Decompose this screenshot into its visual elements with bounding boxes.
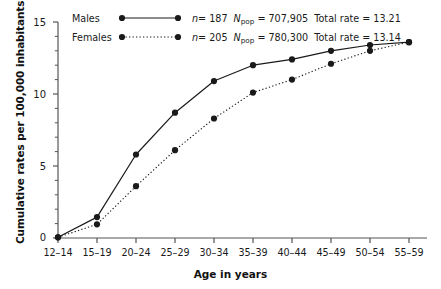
data-point-females-20–24: [133, 183, 139, 189]
data-point-males-15–19: [94, 214, 100, 220]
data-point-females-15–19: [94, 221, 100, 227]
data-point-males-25–29: [172, 110, 178, 116]
legend-marker-females: [175, 34, 181, 40]
data-point-females-12–14: [55, 234, 61, 240]
data-point-females-30–34: [211, 115, 217, 121]
data-point-males-30–34: [211, 78, 217, 84]
legend-marker-males: [119, 15, 125, 21]
data-point-females-25–29: [172, 147, 178, 153]
chart-figure: Cumulative rates per 100,000 inhabitants…: [0, 0, 441, 289]
data-point-females-40–44: [289, 77, 295, 83]
data-point-males-20–24: [133, 151, 139, 157]
data-point-females-45–49: [328, 61, 334, 67]
data-point-males-35–39: [250, 62, 256, 68]
series-line-males: [58, 42, 409, 237]
data-point-males-40–44: [289, 56, 295, 62]
legend-marker-females: [119, 34, 125, 40]
series-line-females: [58, 42, 409, 237]
plot-canvas: [0, 0, 441, 289]
data-point-females-50–54: [367, 48, 373, 54]
data-point-females-35–39: [250, 89, 256, 95]
data-point-males-45–49: [328, 48, 334, 54]
data-point-males-50–54: [367, 42, 373, 48]
data-point-females-55–59: [406, 39, 412, 45]
legend-marker-males: [175, 15, 181, 21]
